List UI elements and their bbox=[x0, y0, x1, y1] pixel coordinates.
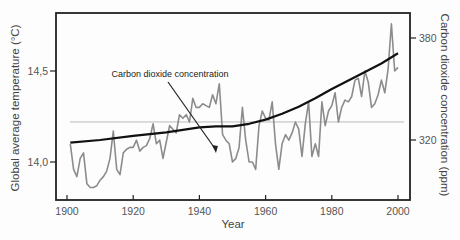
y-axis-title-right: Carbon dioxide concentration (ppm) bbox=[439, 14, 451, 197]
co2-annotation-label: Carbon dioxide concentration bbox=[111, 69, 228, 79]
y-right-tick-label: 320 bbox=[419, 134, 437, 146]
plot-frame bbox=[56, 13, 410, 200]
co2-series-line bbox=[70, 53, 398, 142]
annotation: Carbon dioxide concentration bbox=[111, 69, 228, 153]
arrow-head-icon bbox=[212, 145, 218, 153]
y-axis-title-left: Global average temperature (°C) bbox=[9, 24, 21, 191]
y-axis-right: 320380 bbox=[410, 32, 437, 146]
x-tick-label: 2000 bbox=[386, 205, 410, 217]
y-tick-label: 14,5 bbox=[28, 65, 49, 77]
x-axis-title: Year bbox=[221, 218, 244, 230]
chart: 190019201940196019802000 14,014,5 320380… bbox=[0, 0, 460, 240]
series-layer bbox=[70, 24, 398, 188]
x-tick-label: 1960 bbox=[254, 205, 278, 217]
x-tick-label: 1920 bbox=[122, 205, 146, 217]
temperature-series-line bbox=[70, 24, 398, 188]
x-tick-label: 1940 bbox=[188, 205, 212, 217]
x-axis: 190019201940196019802000 bbox=[55, 195, 410, 217]
y-axis-left: 14,014,5 bbox=[28, 65, 56, 168]
x-tick-label: 1980 bbox=[320, 205, 344, 217]
y-right-tick-label: 380 bbox=[419, 32, 437, 44]
x-tick-label: 1900 bbox=[55, 205, 79, 217]
y-tick-label: 14,0 bbox=[28, 156, 49, 168]
